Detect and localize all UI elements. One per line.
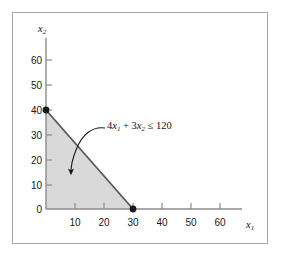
x-axis-title: x1 — [246, 220, 254, 231]
annotation-sub-x1: 1 — [117, 125, 121, 133]
y-tick-label-50: 50 — [20, 81, 42, 91]
vertex-marker-x2-intercept — [43, 107, 50, 114]
y-tick-label-60: 60 — [20, 56, 42, 66]
vertex-marker-x1-intercept — [130, 206, 137, 213]
figure-canvas: 10 20 30 40 50 60 0 10 20 30 40 50 60 x2… — [0, 0, 282, 260]
x-tick-label-10: 10 — [63, 218, 87, 228]
x-tick-label-60: 60 — [208, 218, 232, 228]
y-axis-title-var: x — [38, 23, 43, 34]
x-tick-label-30: 30 — [121, 218, 145, 228]
x-axis-title-sub: 1 — [251, 224, 255, 232]
annotation-rhs: 120 — [156, 120, 172, 131]
annotation-var-x2: x — [137, 120, 142, 131]
y-axis-title: x2 — [38, 24, 46, 35]
y-tick-label-20: 20 — [20, 156, 42, 166]
x-tick-label-20: 20 — [92, 218, 116, 228]
annotation-sub-x2: 2 — [142, 125, 146, 133]
constraint-annotation-label: 4x1 + 3x2 ≤ 120 — [107, 121, 172, 132]
x-tick-label-50: 50 — [179, 218, 203, 228]
origin-label: 0 — [20, 205, 42, 215]
y-tick-label-30: 30 — [20, 131, 42, 141]
y-tick-label-10: 10 — [20, 181, 42, 191]
x-axis-title-var: x — [246, 219, 251, 230]
x-tick-label-40: 40 — [150, 218, 174, 228]
y-axis-title-sub: 2 — [43, 28, 47, 36]
y-tick-label-40: 40 — [20, 106, 42, 116]
